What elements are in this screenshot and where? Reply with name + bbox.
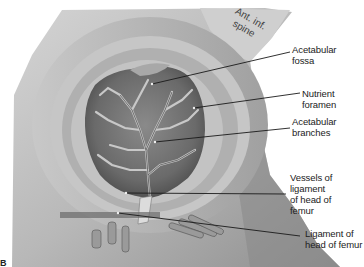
label-acetabular-fossa: Acetabular fossa [292, 44, 336, 66]
label-nutrient-foramen: Nutrient foramen [302, 88, 364, 110]
label-acetabular-branches: Acetabular branches [292, 116, 336, 138]
label-ligament-of-head: Ligament of head of femur [305, 228, 362, 250]
figure-letter: B [0, 258, 7, 267]
label-vessels-of-ligament: Vessels of ligament of head of femur [290, 172, 332, 216]
